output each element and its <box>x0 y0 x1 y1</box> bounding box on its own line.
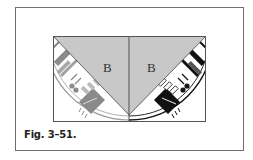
figure-caption: Fig. 3–51. <box>24 129 76 140</box>
left-panel-label: B <box>103 60 112 75</box>
figure-illustration: B B <box>53 36 206 122</box>
right-panel-label: B <box>147 60 156 75</box>
